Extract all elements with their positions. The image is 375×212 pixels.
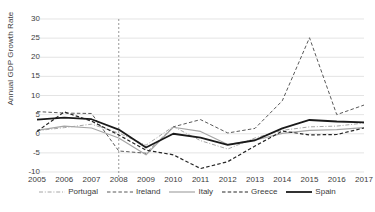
legend-label: Spain	[315, 188, 335, 196]
legend-label: Ireland	[136, 188, 160, 196]
legend-swatch-greece-icon	[222, 188, 248, 196]
legend-swatch-portugal-icon	[39, 188, 65, 196]
legend-label: Portugal	[68, 188, 98, 196]
x-tick-label: 2017	[344, 175, 375, 184]
legend-item-greece[interactable]: Greece	[222, 188, 277, 196]
legend-item-ireland[interactable]: Ireland	[107, 188, 160, 196]
legend-label: Greece	[251, 188, 277, 196]
legend-swatch-spain-icon	[286, 188, 312, 196]
legend-label: Italy	[198, 188, 213, 196]
chart-legend: PortugalIrelandItalyGreeceSpain	[0, 188, 375, 196]
legend-item-italy[interactable]: Italy	[169, 188, 213, 196]
legend-item-portugal[interactable]: Portugal	[39, 188, 98, 196]
legend-swatch-ireland-icon	[107, 188, 133, 196]
legend-swatch-italy-icon	[169, 188, 195, 196]
x-axis-tick-labels: 2005200620072008200920102011201220132014…	[0, 0, 375, 212]
gdp-growth-line-chart: Annual GDP Growth Rate 302520151050-5-10…	[0, 0, 375, 212]
legend-item-spain[interactable]: Spain	[286, 188, 335, 196]
